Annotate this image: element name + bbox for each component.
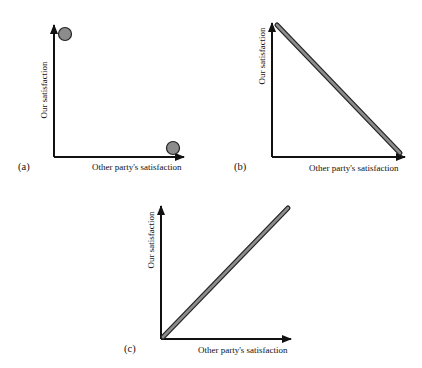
panel-label: (c) bbox=[124, 343, 136, 355]
panel-a: Our satisfaction Other party's satisfact… bbox=[18, 25, 184, 173]
panel-c: Our satisfaction Other party's satisfact… bbox=[124, 206, 291, 355]
panel-b: Our satisfaction Other party's satisfact… bbox=[234, 23, 405, 173]
x-axis-label: Other party's satisfaction bbox=[92, 162, 182, 172]
x-axis-label: Other party's satisfaction bbox=[309, 163, 399, 173]
panel-label: (b) bbox=[234, 161, 247, 173]
outcome-circle-top bbox=[59, 28, 72, 41]
panel-label: (a) bbox=[18, 161, 30, 173]
y-axis-label: Our satisfaction bbox=[146, 211, 156, 269]
x-axis-label: Other party's satisfaction bbox=[198, 345, 288, 355]
joint-gain-line bbox=[163, 208, 288, 337]
tradeoff-line bbox=[277, 25, 400, 153]
y-axis-label: Our satisfaction bbox=[39, 61, 49, 119]
outcome-circle-bottom bbox=[167, 142, 180, 155]
y-axis-label: Our satisfaction bbox=[257, 27, 267, 85]
negotiation-diagrams: Our satisfaction Other party's satisfact… bbox=[0, 0, 422, 368]
